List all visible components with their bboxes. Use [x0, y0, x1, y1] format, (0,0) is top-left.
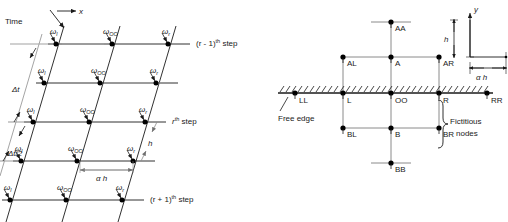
omega-label-row2: ωl ωOO ωr — [38, 66, 159, 76]
fictitious-nodes-label-line2: nodes — [456, 129, 478, 138]
svg-text:ωOO: ωOO — [57, 183, 73, 193]
node-label-BL: BL — [347, 130, 357, 139]
alpha-h-dimension — [80, 161, 133, 173]
key-alpha-h-label: α h — [476, 73, 488, 82]
right-diagram-node-stencil: AA AL A AR LL L OO R RR BL B BR BB Free … — [278, 0, 508, 222]
svg-text:ωr: ωr — [162, 27, 171, 37]
svg-text:ωOO: ωOO — [80, 105, 96, 115]
delta-t-label: Δt — [11, 85, 20, 94]
omega-label-row5: ωl ωOO ωr — [4, 183, 125, 193]
grid-nodes — [8, 42, 171, 203]
svg-text:ωOO: ωOO — [68, 144, 84, 154]
omega-label-row1: ωl ωOO ωr — [50, 27, 171, 37]
scale-key — [470, 13, 506, 57]
omega-left-subscript: l — [56, 31, 58, 37]
stencil-node-labels: AA AL A AR LL L OO R RR BL B BR BB — [299, 24, 503, 174]
omega-label-row3: ωl ωOO ωr — [27, 105, 148, 115]
step-label-r-plus-1: (r + 1)th step — [150, 194, 194, 204]
node-label-AR: AR — [443, 59, 454, 68]
free-edge-leader — [280, 97, 288, 111]
step-label-r-minus-1: (r - 1)th step — [196, 38, 238, 48]
node-label-AA: AA — [395, 24, 406, 33]
time-axis-label: Time — [5, 17, 23, 26]
node-label-LL: LL — [299, 96, 308, 105]
node-label-BR: BR — [443, 130, 454, 139]
x-axis-label: x — [78, 7, 84, 16]
node-label-L: L — [347, 96, 352, 105]
node-label-AL: AL — [347, 59, 357, 68]
free-edge-hatching — [280, 86, 488, 92]
node-label-OO: OO — [395, 96, 407, 105]
svg-text:ωl: ωl — [50, 27, 58, 37]
alpha-h-label: α h — [96, 174, 108, 183]
node-pointer-ticks — [4, 33, 167, 198]
left-diagram-space-time-grid: ωl ωOO ωr ωl ωOO ωr ωl ωOO ωr ωl ωOO ωr … — [0, 0, 275, 222]
svg-text:ωOO: ωOO — [91, 66, 107, 76]
svg-text:ωl: ωl — [38, 66, 46, 76]
svg-text:ωOO: ωOO — [103, 27, 119, 37]
omega-label-row4: ωl ωOO ωr — [15, 144, 136, 154]
svg-text:ωl: ωl — [27, 105, 35, 115]
key-alpha-h-dimension — [469, 52, 507, 74]
h-label: h — [148, 139, 153, 148]
node-label-BB: BB — [395, 165, 406, 174]
key-corner-dot — [505, 56, 508, 59]
step-label-r: rth step — [172, 116, 197, 126]
node-label-B: B — [395, 130, 400, 139]
svg-text:ωr: ωr — [150, 66, 159, 76]
svg-text:ωr: ωr — [127, 144, 136, 154]
node-label-R: R — [443, 96, 449, 105]
delta-t-half-label: Δt/2 — [7, 149, 23, 158]
svg-text:ωr: ωr — [139, 105, 148, 115]
node-label-RR: RR — [491, 96, 503, 105]
key-h-label: h — [444, 35, 449, 44]
step-line-gray-overlays — [0, 44, 160, 161]
time-axis-arrow — [50, 10, 64, 28]
fictitious-nodes-label-line1: Fictitious — [450, 117, 482, 126]
svg-text:ωr: ωr — [116, 183, 125, 193]
node-label-A: A — [395, 59, 401, 68]
svg-text:ωl: ωl — [4, 183, 12, 193]
free-edge-label: Free edge — [278, 114, 315, 123]
y-axis-label: y — [473, 5, 479, 14]
